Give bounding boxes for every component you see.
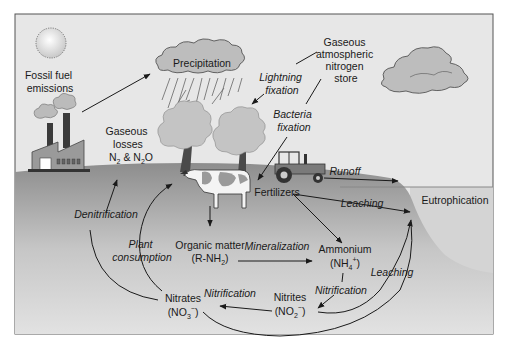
label-precipitation: Precipitation [173,57,231,69]
label-eutrophication: Eutrophication [421,194,488,206]
nitrogen-cycle-diagram: Fossil fuel emissions Precipitation Gase… [0,0,506,364]
label-lightning-fixation: Lightning fixation [259,71,305,96]
label-ammonium: Ammonium [318,243,371,255]
label-denitrification: Denitrification [74,208,138,220]
label-nitrates: Nitrates [165,292,201,304]
label-leaching-top: Leaching [341,197,384,209]
label-bacteria-fixation: Bacteria fixation [273,108,314,133]
label-nitrification-upper: Nitrification [315,284,367,296]
label-fossil-fuel-emissions: Fossil fuel emissions [25,69,75,94]
label-fertilizers: Fertilizers [254,186,300,198]
label-nitrites: Nitrites [274,291,307,303]
label-runoff: Runoff [330,165,362,177]
label-mineralization: Mineralization [245,240,310,252]
label-nitrification-lower: Nitrification [204,287,256,299]
label-organic-matter: Organic matter [175,239,245,251]
sun-icon [36,28,66,58]
label-gaseous-losses-formula: N2 & N2O [109,151,153,165]
label-leaching-right: Leaching [371,266,414,278]
